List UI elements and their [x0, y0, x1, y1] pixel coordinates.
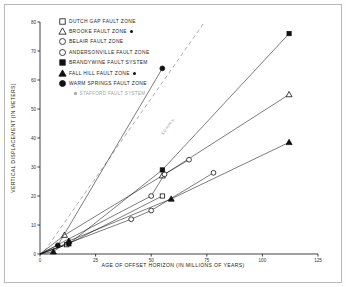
- marker-open-circle: [211, 170, 216, 175]
- legend-item-2[interactable]: BROOKE FAULT ZONE: [56, 26, 206, 36]
- marker-open-triangle: [61, 232, 67, 237]
- marker-open-square: [60, 18, 65, 23]
- stafford-marker-icon: [133, 72, 136, 75]
- open-square-icon: [56, 17, 69, 26]
- open-circle-icon: [56, 48, 69, 57]
- series-4: [40, 170, 216, 254]
- marker-open-square: [160, 194, 164, 198]
- x-tick-label: 125: [314, 258, 322, 263]
- legend-item-4[interactable]: ANDERSONVILLE FAULT ZONE: [56, 47, 206, 57]
- legend-label: BROOKE FAULT ZONE: [69, 29, 127, 34]
- marker-open-circle: [162, 172, 167, 177]
- marker-filled-square: [287, 32, 291, 36]
- marker-filled-triangle: [59, 70, 66, 76]
- x-tick-label: 50: [149, 258, 154, 263]
- marker-open-circle: [60, 39, 66, 45]
- marker-filled-circle: [55, 243, 60, 248]
- marker-filled-triangle: [286, 139, 292, 144]
- marker-filled-circle: [60, 81, 66, 87]
- legend-label: BELAIR FAULT ZONE: [69, 39, 123, 44]
- y-tick-label: 30: [22, 165, 36, 170]
- marker-filled-square: [60, 60, 65, 65]
- legend-note: STAFFORD FAULT SYSTEM: [74, 89, 206, 99]
- x-tick-label: 25: [93, 258, 98, 263]
- x-tick-label: 75: [204, 258, 209, 263]
- y-axis-title: VERTICAL DISPLACEMENT (IN METERS): [10, 43, 16, 233]
- marker-open-triangle: [286, 92, 292, 97]
- marker-open-circle: [187, 157, 192, 162]
- legend-label: BRANDYWINE FAULT SYSTEM: [69, 60, 148, 65]
- legend-label: ANDERSONVILLE FAULT ZONE: [69, 50, 150, 55]
- open-circle-icon: [56, 37, 69, 46]
- chart-legend: DUTCH GAP FAULT ZONEBROOKE FAULT ZONEBEL…: [56, 16, 206, 99]
- y-tick-label: 50: [22, 107, 36, 112]
- stafford-marker-icon: [74, 92, 77, 95]
- marker-open-circle: [60, 49, 66, 55]
- stafford-marker-icon: [130, 30, 133, 33]
- y-tick-label: 0: [22, 252, 36, 257]
- y-tick-label: 20: [22, 194, 36, 199]
- marker-open-circle: [129, 217, 134, 222]
- filled-circle-icon: [56, 79, 69, 88]
- series-line: [40, 173, 213, 254]
- legend-label: FALL HILL FAULT ZONE: [69, 71, 130, 76]
- legend-item-5[interactable]: BRANDYWINE FAULT SYSTEM: [56, 58, 206, 68]
- marker-filled-triangle: [66, 238, 72, 243]
- x-axis-title: AGE OF OFFSET HORIZON (IN MILLIONS OF YE…: [0, 262, 346, 268]
- x-tick-label: 0: [39, 258, 42, 263]
- open-triangle-icon: [56, 27, 69, 36]
- y-tick-label: 80: [22, 20, 36, 25]
- x-tick-label: 100: [259, 258, 267, 263]
- y-tick-label: 40: [22, 136, 36, 141]
- y-tick-label: 10: [22, 223, 36, 228]
- legend-label: WARM SPRINGS FAULT ZONE: [69, 81, 147, 86]
- series-3: [40, 157, 191, 254]
- legend-item-3[interactable]: BELAIR FAULT ZONE: [56, 37, 206, 47]
- figure-container: DUTCH GAP FAULT ZONEBROOKE FAULT ZONEBEL…: [0, 0, 346, 287]
- y-tick-label: 70: [22, 49, 36, 54]
- marker-open-circle: [149, 208, 154, 213]
- legend-note-label: STAFFORD FAULT SYSTEM: [80, 91, 146, 96]
- legend-label: DUTCH GAP FAULT ZONE: [69, 19, 136, 24]
- legend-item-1[interactable]: DUTCH GAP FAULT ZONE: [56, 16, 206, 26]
- legend-item-7[interactable]: WARM SPRINGS FAULT ZONE: [56, 78, 206, 88]
- y-tick-label: 60: [22, 78, 36, 83]
- marker-filled-triangle: [168, 196, 174, 201]
- legend-item-6[interactable]: FALL HILL FAULT ZONE: [56, 68, 206, 78]
- filled-square-icon: [56, 58, 69, 67]
- filled-triangle-icon: [56, 69, 69, 78]
- marker-open-triangle: [59, 28, 66, 34]
- marker-filled-square: [160, 168, 164, 172]
- marker-open-circle: [149, 194, 154, 199]
